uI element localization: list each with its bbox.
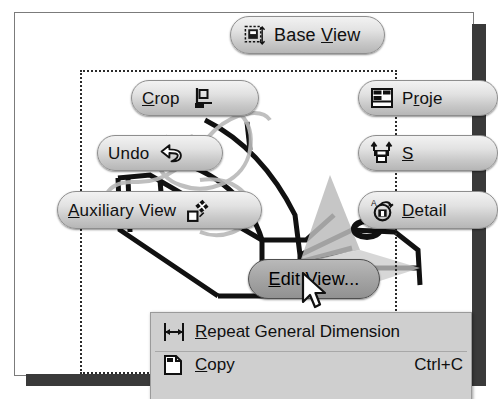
menu-item-undo-label: Undo [108, 145, 149, 162]
mouse-pointer-icon [301, 272, 331, 312]
menu-item-undo[interactable]: Undo [97, 135, 223, 171]
menu-item-detail-view-label: Detail [402, 202, 447, 219]
menu-item-projected-view[interactable]: Proje [358, 80, 498, 116]
copy-icon [159, 352, 189, 378]
base-view-icon [241, 22, 267, 48]
context-menu-item-copy[interactable]: Copy Ctrl+C [151, 352, 471, 378]
undo-arrow-icon [158, 140, 184, 166]
context-menu-item-repeat-general-dimension[interactable]: Repeat General Dimension [151, 313, 471, 351]
crop-icon [189, 85, 215, 111]
menu-item-base-view-label: Base View [274, 26, 361, 44]
context-menu-item-copy-shortcut: Ctrl+C [396, 355, 463, 375]
projected-view-icon [369, 85, 395, 111]
menu-item-crop[interactable]: Crop [131, 80, 259, 116]
screenshot-root: Base View Crop Undo Auxiliary View [0, 0, 498, 399]
menu-item-auxiliary-view-label: Auxiliary View [68, 202, 176, 219]
menu-item-auxiliary-view[interactable]: Auxiliary View [57, 191, 262, 229]
context-menu: Repeat General Dimension Copy Ctrl+C [150, 312, 472, 399]
context-menu-item-copy-label: Copy [195, 355, 235, 375]
menu-item-crop-label: Crop [142, 90, 180, 107]
detail-view-icon: A [369, 197, 395, 223]
menu-item-detail-view[interactable]: A Detail [358, 191, 498, 229]
menu-item-section-view-label: S [402, 145, 414, 162]
menu-item-base-view[interactable]: Base View [230, 16, 385, 54]
auxiliary-view-icon [185, 197, 211, 223]
dimension-icon [159, 319, 189, 345]
context-menu-item-repeat-general-dimension-label: Repeat General Dimension [195, 322, 400, 342]
menu-item-section-view[interactable]: S [358, 135, 498, 171]
menu-item-projected-view-label: Proje [402, 90, 443, 107]
section-view-icon [369, 140, 395, 166]
